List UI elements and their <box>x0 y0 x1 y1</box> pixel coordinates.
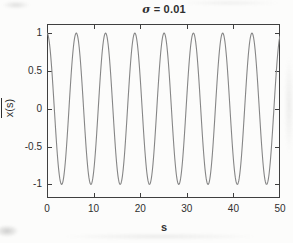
plot-title-text: = 0.01 <box>150 3 185 15</box>
x-tick-label: 20 <box>135 203 146 214</box>
y-tick-label: 0 <box>0 103 42 114</box>
scan-artifact <box>284 55 293 155</box>
x-axis-label: s <box>161 221 167 233</box>
x-tick-label: 40 <box>228 203 239 214</box>
y-tick-label: 1 <box>0 27 42 38</box>
plot-area <box>47 24 280 198</box>
x-tick-label: 30 <box>181 203 192 214</box>
figure-canvas: σ = 0.01 x(s) 0102030405010.50-0.5-1 s <box>0 0 293 243</box>
scan-artifact <box>2 1 30 9</box>
plot-svg <box>47 24 280 198</box>
y-tick-label: -0.5 <box>0 141 42 152</box>
cosine-curve <box>47 33 280 184</box>
y-tick-label: -1 <box>0 178 42 189</box>
x-tick-label: 10 <box>88 203 99 214</box>
scan-artifact <box>0 225 19 237</box>
scan-artifact <box>180 0 280 6</box>
y-tick-label: 0.5 <box>0 65 42 76</box>
scan-artifact <box>60 233 260 240</box>
plot-title: σ = 0.01 <box>142 3 186 16</box>
x-tick-label: 0 <box>44 203 50 214</box>
x-tick-label: 50 <box>274 203 285 214</box>
